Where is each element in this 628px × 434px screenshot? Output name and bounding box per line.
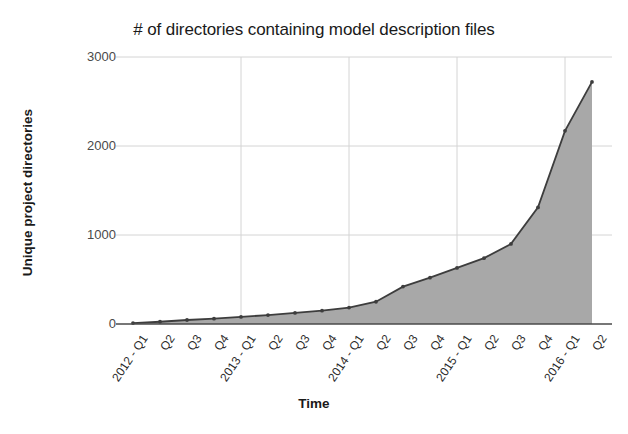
x-axis-label: Time (0, 396, 628, 411)
x-axis-ticks: 2012 - Q1Q2Q3Q42013 - Q1Q2Q3Q42014 - Q1Q… (0, 0, 628, 434)
chart-figure: # of directories containing model descri… (0, 0, 628, 434)
